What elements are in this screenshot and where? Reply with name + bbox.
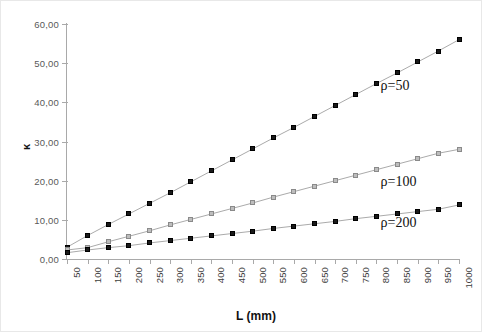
data-point [250,229,255,234]
series-label: ρ=100 [381,174,417,190]
data-point [395,70,400,75]
x-tick [211,259,212,264]
x-tick [397,259,398,264]
data-point [250,146,255,151]
plot-area: 0,0010,0020,0030,0040,0050,0060,00 50100… [67,24,459,259]
data-point [168,190,173,195]
y-tick-label: 0,00 [40,254,59,265]
data-point [209,168,214,173]
data-point [271,226,276,231]
data-point [457,37,462,42]
data-point [230,231,235,236]
x-tick [315,259,316,264]
x-tick [253,259,254,264]
x-tick-label: 850 [401,267,412,283]
x-tick-label: 750 [360,267,371,283]
x-tick [232,259,233,264]
data-point [333,178,338,183]
data-point [188,236,193,241]
data-point [415,156,420,161]
data-point [374,214,379,219]
data-point [353,173,358,178]
series-label: ρ=200 [381,215,417,231]
data-point [230,157,235,162]
data-point [85,233,90,238]
data-point [312,114,317,119]
x-tick-label: 150 [112,267,123,283]
data-point [230,206,235,211]
data-point [147,228,152,233]
data-point [188,217,193,222]
y-tick-label: 40,00 [34,97,59,108]
data-point [188,179,193,184]
y-tick-label: 30,00 [34,136,59,147]
data-point [333,219,338,224]
x-axis-title: L (mm) [1,309,481,323]
data-point [457,202,462,207]
chart-figure: κ L (mm) 0,0010,0020,0030,0040,0050,0060… [0,0,482,332]
y-tick-label: 60,00 [34,19,59,30]
x-tick [88,259,89,264]
series-label: ρ=50 [381,78,410,94]
x-tick [108,259,109,264]
x-tick-label: 1000 [463,267,474,289]
data-point [209,233,214,238]
x-tick-label: 200 [133,267,144,283]
data-point [168,238,173,243]
x-tick-label: 550 [277,267,288,283]
data-point [250,200,255,205]
x-tick-label: 500 [257,267,268,283]
x-tick [170,259,171,264]
x-tick [376,259,377,264]
data-point [106,245,111,250]
x-tick [418,259,419,264]
x-tick [273,259,274,264]
x-tick [67,259,68,264]
data-point [291,189,296,194]
x-tick-label: 50 [71,267,82,278]
data-point [106,222,111,227]
y-axis-title: κ [20,144,32,150]
data-point [291,224,296,229]
x-tick [129,259,130,264]
data-point [395,162,400,167]
y-tick-label: 50,00 [34,58,59,69]
data-point [457,147,462,152]
data-point [415,59,420,64]
data-point [374,81,379,86]
data-point [147,201,152,206]
x-tick-label: 350 [195,267,206,283]
x-tick [294,259,295,264]
data-point [415,209,420,214]
x-tick-label: 250 [154,267,165,283]
x-axis-line [66,259,460,260]
x-tick [150,259,151,264]
x-tick [335,259,336,264]
data-point [147,240,152,245]
data-point [312,184,317,189]
data-point [168,222,173,227]
x-tick-label: 700 [339,267,350,283]
y-tick-label: 20,00 [34,175,59,186]
y-tick-label: 10,00 [34,214,59,225]
x-tick-label: 100 [92,267,103,283]
x-tick-label: 900 [422,267,433,283]
data-point [126,234,131,239]
data-point [126,211,131,216]
data-point [333,103,338,108]
x-tick-label: 650 [319,267,330,283]
x-tick [438,259,439,264]
data-point [353,92,358,97]
data-point [436,151,441,156]
data-point [436,49,441,54]
data-point [436,207,441,212]
data-point [353,216,358,221]
data-point [312,221,317,226]
data-point [209,211,214,216]
x-tick-label: 600 [298,267,309,283]
data-point [85,247,90,252]
data-point [271,195,276,200]
x-tick-label: 450 [236,267,247,283]
x-tick-label: 300 [174,267,185,283]
x-tick [459,259,460,264]
